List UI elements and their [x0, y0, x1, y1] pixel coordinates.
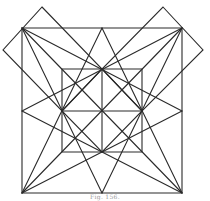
figure-caption: Fig. 156. [0, 193, 210, 201]
geometric-construction-diagram [0, 0, 210, 201]
